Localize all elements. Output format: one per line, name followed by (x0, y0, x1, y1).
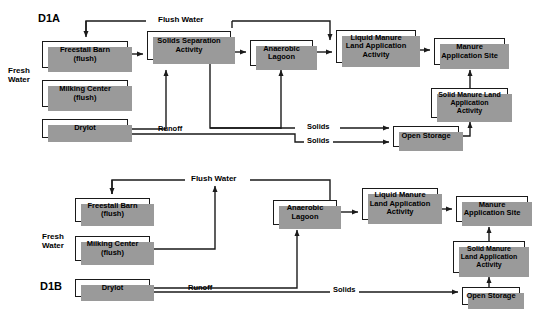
node-label: Open Storage (399, 132, 452, 140)
node-label: Drylot (100, 284, 126, 292)
node-label: Milking Center (flush) (85, 240, 141, 257)
edge-label-flush-water-d1a: Flush Water (155, 15, 206, 24)
flow-diagram-canvas: D1A Fresh Water Freestall Barn (flush) M… (0, 0, 547, 324)
node-label: Drylot (72, 124, 98, 132)
diagram-id-d1b: D1B (40, 280, 62, 292)
node-open-storage-d1a[interactable]: Open Storage (393, 126, 459, 147)
node-label: Liquid Manure Land Application Activity (344, 34, 409, 59)
node-label: Solids Separation Activity (155, 37, 222, 54)
node-anaerobic-lagoon-d1b[interactable]: Anaerobic Lagoon (273, 200, 337, 225)
edge-label-runoff-d1b: Runoff (185, 283, 215, 292)
node-label: Manure Application Site (462, 201, 523, 218)
node-liquid-manure-land-application-activity-d1b[interactable]: Liquid Manure Land Application Activity (362, 188, 438, 220)
node-milking-center-d1b[interactable]: Milking Center (flush) (75, 236, 150, 261)
node-label: Solid Manure Land Application Activity (459, 245, 520, 268)
node-label: Manure Application Site (439, 43, 500, 60)
node-label: Liquid Manure Land Application Activity (368, 191, 433, 216)
node-open-storage-d1b[interactable]: Open Storage (462, 287, 520, 305)
fresh-water-label-d1b: Fresh Water (42, 232, 64, 250)
node-manure-application-site-d1a[interactable]: Manure Application Site (434, 38, 505, 65)
node-anaerobic-lagoon-d1a[interactable]: Anaerobic Lagoon (250, 40, 313, 66)
fresh-water-label-d1a: Fresh Water (8, 66, 30, 84)
node-milking-center-d1a[interactable]: Milking Center (flush) (42, 80, 128, 107)
node-freestall-barn-d1a[interactable]: Freestall Barn (flush) (42, 41, 128, 68)
edge-label-solids-upper-d1a: Solids (304, 122, 333, 131)
node-solid-manure-land-application-activity-d1b[interactable]: Solid Manure Land Application Activity (453, 241, 525, 273)
diagram-id-d1a: D1A (38, 12, 60, 24)
edge-label-solids-lower-d1a: Solids (304, 136, 333, 145)
edge-label-flush-water-d1b: Flush Water (188, 174, 239, 183)
node-label: Freestall Barn (flush) (85, 202, 139, 219)
node-drylot-d1a[interactable]: Drylot (42, 119, 128, 138)
node-liquid-manure-land-application-activity-d1a[interactable]: Liquid Manure Land Application Activity (336, 30, 416, 63)
node-label: Open Storage (464, 292, 517, 300)
node-label: Anaerobic Lagoon (285, 204, 326, 221)
node-drylot-d1b[interactable]: Drylot (75, 279, 150, 297)
node-freestall-barn-d1b[interactable]: Freestall Barn (flush) (75, 198, 150, 222)
node-label: Milking Center (flush) (57, 85, 113, 102)
node-solids-separation-activity-d1a[interactable]: Solids Separation Activity (147, 31, 231, 60)
node-label: Anaerobic Lagoon (261, 45, 302, 62)
edge-label-runoff-d1a: Runoff (155, 124, 185, 133)
node-label: Solid Manure Land Application Activity (436, 91, 503, 114)
node-manure-application-site-d1b[interactable]: Manure Application Site (456, 196, 528, 222)
node-solid-manure-land-application-activity-d1a[interactable]: Solid Manure Land Application Activity (431, 88, 508, 118)
edge-label-solids-d1b: Solids (330, 285, 359, 294)
node-label: Freestall Barn (flush) (58, 46, 112, 63)
